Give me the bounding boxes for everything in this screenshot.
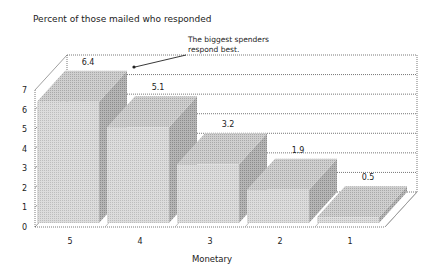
annotation-arrow bbox=[135, 55, 186, 67]
y-tick-label: 4 bbox=[22, 145, 27, 154]
x-tick-label: 4 bbox=[137, 237, 142, 246]
x-tick-label: 2 bbox=[277, 237, 282, 246]
x-axis-ticks: 54321 bbox=[67, 237, 352, 246]
y-tick-label: 1 bbox=[22, 203, 27, 212]
x-tick-label: 5 bbox=[67, 237, 72, 246]
annotation-line2: respond best. bbox=[188, 45, 239, 54]
data-label: 0.5 bbox=[362, 173, 375, 182]
x-axis-label: Monetary bbox=[192, 254, 232, 264]
y-tick-label: 0 bbox=[22, 223, 27, 232]
y-tick-label: 2 bbox=[22, 184, 27, 193]
annotation: The biggest spenders respond best. bbox=[132, 35, 269, 69]
data-label: 5.1 bbox=[152, 83, 165, 92]
y-tick-label: 5 bbox=[22, 125, 27, 134]
bar-chart-3d: Percent of those mailed who responded 01… bbox=[0, 0, 423, 273]
bars: 6.45.13.21.90.5 bbox=[37, 58, 417, 227]
y-tick-label: 7 bbox=[22, 86, 27, 95]
data-label: 1.9 bbox=[292, 146, 305, 155]
annotation-line1: The biggest spenders bbox=[187, 35, 269, 44]
x-tick-label: 3 bbox=[207, 237, 212, 246]
annotation-arrow-head bbox=[132, 65, 135, 68]
x-tick-label: 1 bbox=[347, 237, 352, 246]
data-label: 6.4 bbox=[82, 58, 95, 67]
y-tick-label: 6 bbox=[22, 106, 27, 115]
y-axis-ticks: 01234567 bbox=[22, 86, 27, 232]
data-label: 3.2 bbox=[222, 120, 235, 129]
chart-title: Percent of those mailed who responded bbox=[33, 14, 212, 24]
y-tick-label: 3 bbox=[22, 164, 27, 173]
